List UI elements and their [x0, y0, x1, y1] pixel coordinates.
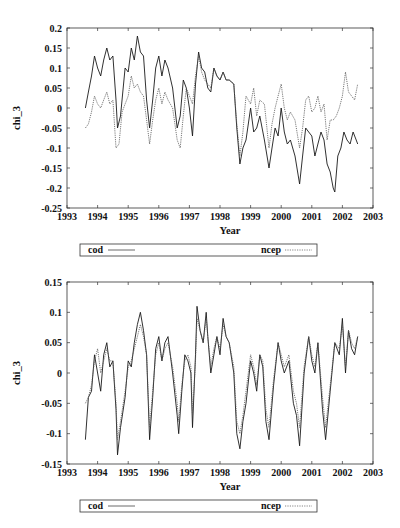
x-tick-label: 1998 — [210, 211, 230, 222]
x-tick-label: 1996 — [149, 467, 169, 478]
y-tick-label: -0.15 — [41, 163, 62, 174]
bottom-chart: 1993199419951996199719981999200020012002… — [11, 277, 383, 513]
legend-label-ncep: ncep — [261, 500, 281, 511]
bottom-chart-ylabel: chi_3 — [11, 361, 22, 385]
bottom-chart-legend: cod ncep — [80, 500, 317, 512]
x-tick-label: 1994 — [88, 467, 108, 478]
y-tick-label: 0.05 — [45, 83, 63, 94]
y-tick-label: 0 — [57, 103, 62, 114]
legend-label-cod: cod — [88, 244, 103, 255]
x-tick-label: 2002 — [332, 211, 352, 222]
top-chart-xlabel: Year — [220, 225, 241, 236]
y-tick-label: -0.2 — [46, 183, 62, 194]
y-tick-label: 0.15 — [45, 43, 63, 54]
x-tick-label: 1997 — [179, 467, 199, 478]
x-tick-label: 1999 — [241, 211, 261, 222]
top-chart: 1993199419951996199719981999200020012002… — [11, 23, 383, 257]
top-chart-legend: cod ncep — [80, 244, 317, 256]
y-tick-label: -0.15 — [41, 459, 62, 470]
x-tick-label: 1998 — [210, 467, 230, 478]
y-tick-label: -0.1 — [46, 143, 62, 154]
top-chart-ticks: 1993199419951996199719981999200020012002… — [41, 23, 383, 223]
y-tick-label: 0 — [57, 368, 62, 379]
x-tick-label: 1997 — [179, 211, 199, 222]
x-tick-label: 1999 — [241, 467, 261, 478]
y-tick-label: -0.25 — [41, 203, 62, 214]
y-tick-label: -0.05 — [41, 398, 62, 409]
legend-label-ncep: ncep — [261, 244, 281, 255]
x-tick-label: 2001 — [302, 211, 322, 222]
legend-label-cod: cod — [88, 500, 103, 511]
y-tick-label: 0.1 — [50, 63, 63, 74]
x-tick-label: 2002 — [332, 467, 352, 478]
bottom-chart-frame — [67, 282, 373, 464]
y-tick-label: 0.15 — [45, 277, 63, 288]
bottom-chart-series — [85, 306, 357, 455]
x-tick-label: 2000 — [271, 211, 291, 222]
top-chart-frame — [67, 28, 373, 208]
x-tick-label: 1994 — [88, 211, 108, 222]
y-tick-label: 0.05 — [45, 337, 63, 348]
top-chart-ylabel: chi_3 — [11, 106, 22, 130]
series-ncep — [85, 56, 357, 156]
x-tick-label: 2003 — [363, 467, 383, 478]
figure-canvas: 1993199419951996199719981999200020012002… — [0, 0, 400, 528]
y-tick-label: 0.1 — [50, 307, 63, 318]
x-tick-label: 2001 — [302, 467, 322, 478]
x-tick-label: 1996 — [149, 211, 169, 222]
x-tick-label: 2003 — [363, 211, 383, 222]
y-tick-label: 0.2 — [50, 23, 63, 34]
y-tick-label: -0.1 — [46, 428, 62, 439]
bottom-chart-xlabel: Year — [220, 481, 241, 492]
x-tick-label: 1995 — [118, 467, 138, 478]
x-tick-label: 1995 — [118, 211, 138, 222]
top-chart-series — [85, 36, 357, 192]
x-tick-label: 2000 — [271, 467, 291, 478]
series-cod — [85, 36, 357, 192]
y-tick-label: -0.05 — [41, 123, 62, 134]
